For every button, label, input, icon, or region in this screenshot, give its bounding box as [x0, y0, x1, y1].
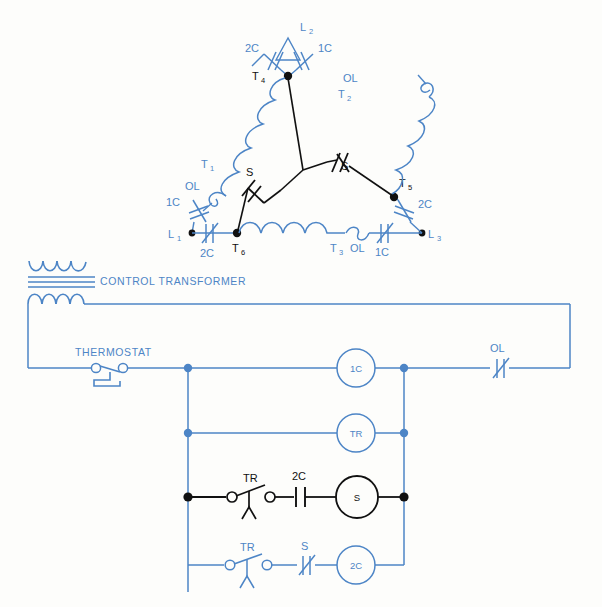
coil-2C-label: 2C [350, 560, 362, 571]
contact-top-left-2C[interactable] [264, 52, 283, 70]
thermostat-label: THERMOSTAT [75, 346, 152, 358]
terminal-T1-sub: 1 [210, 164, 214, 173]
terminal-T6-sub: 6 [241, 248, 245, 257]
terminal-L3-label: L [428, 228, 434, 240]
terminal-L1-sub: 1 [177, 234, 181, 243]
contact-2C-s-rung-label: 2C [292, 470, 306, 482]
contact-OL[interactable] [493, 358, 509, 378]
control-transformer-label: CONTROL TRANSFORMER [100, 275, 246, 287]
terminal-T2-label: T [338, 88, 345, 100]
timed-contact-TR-s[interactable] [227, 485, 275, 519]
rung-1c: THERMOSTAT 1C OL [28, 342, 570, 387]
coil-1C-label: 1C [350, 363, 362, 374]
terminal-L3-sub: 3 [437, 234, 441, 243]
terminal-L1-label: L [168, 228, 174, 240]
electrical-schematic: 2C 1C L 2 T 4 T 1 OL [0, 0, 602, 607]
contact-s-right-label: S [341, 160, 348, 172]
contact-top-right-1C-label: 1C [318, 42, 332, 54]
schematic-canvas: 2C 1C L 2 T 4 T 1 OL [0, 0, 602, 607]
contact-s-left-label: S [246, 166, 253, 178]
terminal-T5-sub: 5 [408, 183, 412, 192]
motor-delta-group: 2C 1C L 2 T 4 T 1 OL [166, 0, 441, 259]
rung-2c: TR S 2C [188, 540, 404, 588]
transformer-primary-winding [29, 261, 86, 271]
winding-left-leg [221, 78, 285, 196]
contact-right-2C[interactable] [394, 200, 414, 222]
transformer-secondary-winding [28, 294, 84, 304]
coil-S-label: S [354, 492, 360, 503]
star-wire-top [288, 78, 303, 170]
rung-s: TR 2C S [183, 470, 408, 519]
overload-ol-right [313, 54, 433, 97]
contact-right-2C-label: 2C [418, 198, 432, 210]
node-tr-left [184, 429, 192, 437]
terminal-T1-label: T [201, 158, 208, 170]
contact-S-2c-rung[interactable] [299, 555, 315, 575]
contact-S-2c-rung-label: S [301, 540, 308, 552]
terminal-T3-label: T [330, 242, 337, 254]
overload-ol-left-label: OL [185, 180, 200, 192]
contact-left-2C-label: 2C [200, 247, 214, 259]
terminal-T4-sub: 4 [261, 76, 265, 85]
contact-2C-s-rung[interactable] [296, 487, 305, 507]
node-tr-right [400, 429, 408, 437]
overload-ol-right-label: OL [343, 72, 358, 84]
contact-right-1C-label: 1C [375, 246, 389, 258]
terminal-L2-sub: 2 [309, 27, 313, 36]
timed-contact-TR-2c[interactable] [225, 554, 272, 588]
contact-top-left-2C-label: 2C [245, 42, 259, 54]
node-s-right [399, 492, 408, 501]
contact-OL-label: OL [490, 342, 505, 354]
terminal-T3-sub: 3 [339, 248, 343, 257]
winding-right-leg [338, 0, 436, 194]
overload-ol-bottom-label: OL [350, 242, 365, 254]
terminal-T4-label: T [252, 70, 259, 82]
thermostat-switch[interactable] [91, 363, 127, 386]
rung-tr: TR [184, 414, 408, 452]
overload-ol-bottom [346, 227, 403, 239]
terminal-L2-label: L [300, 21, 306, 33]
transformer-core [28, 277, 95, 287]
contact-left-1C[interactable] [189, 200, 209, 222]
coil-TR-label: TR [350, 428, 363, 439]
terminal-T6-label: T [232, 242, 239, 254]
terminal-T2-sub: 2 [347, 94, 351, 103]
timed-contact-TR-s-label: TR [243, 472, 258, 484]
contact-left-1C-label: 1C [166, 196, 180, 208]
timed-contact-TR-2c-label: TR [240, 541, 255, 553]
winding-bottom-leg [239, 223, 345, 234]
